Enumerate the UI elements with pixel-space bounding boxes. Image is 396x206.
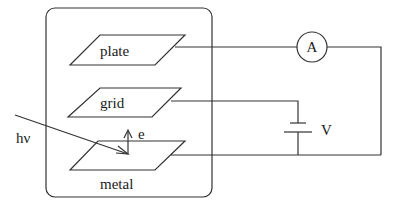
- photon-label: hν: [16, 130, 31, 146]
- plate-label: plate: [100, 43, 129, 59]
- ammeter-label: A: [307, 39, 318, 55]
- grid-electrode: [68, 88, 181, 117]
- photon-ray: [15, 115, 128, 154]
- ammeter-return-wire: [327, 47, 381, 155]
- electron-label: e: [138, 126, 145, 142]
- grid-wire: [171, 101, 298, 123]
- voltage-label: V: [321, 122, 332, 138]
- grid-label: grid: [100, 95, 125, 111]
- photoelectric-diagram: plate grid metal hν e A V: [0, 0, 396, 206]
- metal-label: metal: [100, 176, 133, 192]
